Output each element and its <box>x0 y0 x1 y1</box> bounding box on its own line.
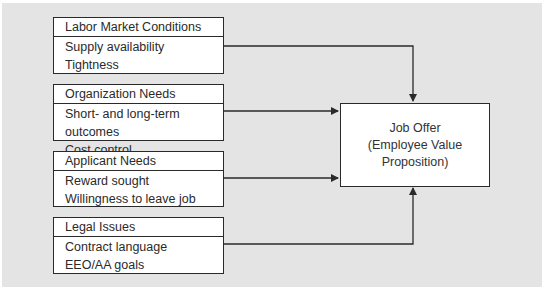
factor-item: Contract language <box>65 238 223 256</box>
factor-title: Labor Market Conditions <box>54 18 223 37</box>
factor-box-legal-issues: Legal Issues Contract language EEO/AA go… <box>53 217 224 274</box>
factor-title: Legal Issues <box>54 218 223 237</box>
job-offer-line: Job Offer <box>389 120 440 137</box>
job-offer-line: Proposition) <box>382 154 449 171</box>
factor-item: EEO/AA goals <box>65 256 223 274</box>
factor-box-applicant-needs: Applicant Needs Reward sought Willingnes… <box>53 151 224 207</box>
factor-title: Organization Needs <box>54 85 223 104</box>
arrow-legal-issues <box>224 188 413 244</box>
factor-item: Supply availability <box>65 38 223 56</box>
factor-title: Applicant Needs <box>54 152 223 171</box>
job-offer-box: Job Offer (Employee Value Proposition) <box>340 103 490 187</box>
factor-item: Willingness to leave job <box>65 190 223 208</box>
arrow-labor-market <box>224 46 413 101</box>
factor-item: Tightness <box>65 56 223 74</box>
factor-box-organization-needs: Organization Needs Short- and long-term … <box>53 84 224 141</box>
factor-item: Short- and long-term outcomes <box>65 105 223 141</box>
factor-box-labor-market: Labor Market Conditions Supply availabil… <box>53 17 224 74</box>
job-offer-line: (Employee Value <box>368 137 462 154</box>
factor-item: Reward sought <box>65 172 223 190</box>
